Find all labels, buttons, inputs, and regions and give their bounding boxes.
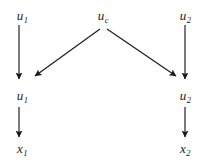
node-uc-top-base: u bbox=[98, 8, 105, 23]
node-u1-top-subscript: 1 bbox=[24, 15, 28, 25]
edge-uc-to-u2mid bbox=[107, 29, 176, 76]
node-x1-bottom-subscript: 1 bbox=[23, 148, 27, 158]
node-u1-mid-base: u bbox=[17, 88, 24, 103]
node-u2-top-subscript: 2 bbox=[187, 15, 191, 25]
node-u1-top: u1 bbox=[17, 9, 28, 22]
node-x1-bottom-base: x bbox=[17, 141, 23, 156]
node-u2-mid: u2 bbox=[180, 89, 191, 102]
node-x2-bottom-subscript: 2 bbox=[186, 148, 190, 158]
node-u2-top-base: u bbox=[180, 8, 187, 23]
causal-diagram: u1 uc u2 u1 u2 x1 x2 bbox=[0, 0, 212, 162]
node-u2-mid-subscript: 2 bbox=[187, 95, 191, 105]
node-u1-top-base: u bbox=[17, 8, 24, 23]
node-x2-bottom: x2 bbox=[180, 142, 190, 155]
node-x1-bottom: x1 bbox=[17, 142, 27, 155]
node-u1-mid-subscript: 1 bbox=[24, 95, 28, 105]
edge-uc-to-u1mid bbox=[35, 29, 100, 76]
node-u2-top: u2 bbox=[180, 9, 191, 22]
node-uc-top-subscript: c bbox=[105, 15, 109, 25]
node-uc-top: uc bbox=[98, 9, 108, 22]
node-u1-mid: u1 bbox=[17, 89, 28, 102]
node-x2-bottom-base: x bbox=[180, 141, 186, 156]
node-u2-mid-base: u bbox=[180, 88, 187, 103]
